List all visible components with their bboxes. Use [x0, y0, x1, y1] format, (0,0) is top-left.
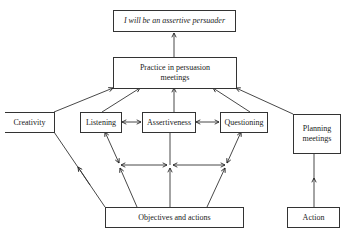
action-label: Action [303, 213, 325, 223]
planning-label: Planning meetings [300, 124, 334, 144]
assertiveness-box: Assertiveness [142, 112, 196, 133]
questioning-box: Questioning [220, 112, 268, 133]
practice-box: Practice in persuasion meetings [113, 57, 237, 89]
listening-label: Listening [86, 118, 116, 128]
listening-box: Listening [80, 112, 122, 133]
goal-box: I will be an assertive persuader [113, 10, 236, 32]
questioning-label: Questioning [224, 118, 263, 128]
goal-label: I will be an assertive persuader [124, 16, 225, 26]
creativity-label: Creativity [14, 118, 46, 128]
creativity-box: Creativity [5, 112, 55, 133]
assertiveness-label: Assertiveness [147, 118, 191, 128]
planning-box: Planning meetings [293, 114, 341, 154]
practice-label: Practice in persuasion meetings [130, 63, 220, 83]
objectives-box: Objectives and actions [105, 207, 244, 228]
objectives-label: Objectives and actions [138, 213, 210, 223]
action-box: Action [287, 207, 340, 228]
